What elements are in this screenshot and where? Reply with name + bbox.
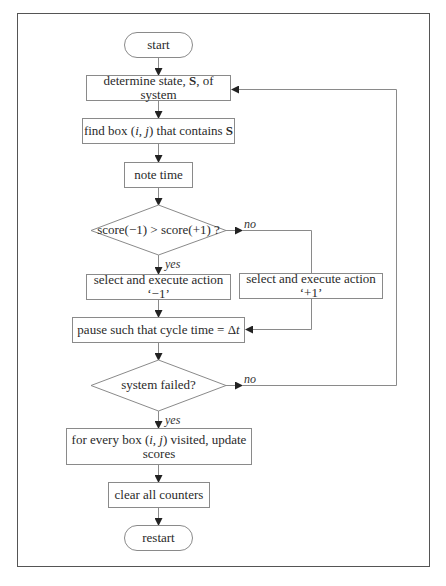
start-terminal: start [124, 32, 193, 58]
determine-state-label: determine state, S, of system [87, 74, 230, 101]
restart-label: restart [142, 531, 174, 545]
flowchart-canvas: start determine state, S, of system find… [0, 0, 446, 586]
restart-terminal: restart [124, 525, 193, 551]
pause-label: pause such that cycle time = Δt [77, 323, 239, 337]
note-time-label: note time [134, 168, 183, 182]
failed-no-label: no [244, 372, 256, 387]
score-yes-label: yes [165, 257, 180, 272]
determine-state-box: determine state, S, of system [86, 75, 231, 101]
action-minus-box: select and execute action ‘−1’ [86, 274, 231, 300]
note-time-box: note time [124, 162, 193, 188]
decision-score-label: score(−1) > score(+1) ? [91, 222, 226, 238]
action-plus-box: select and execute action ‘+1’ [239, 273, 383, 299]
find-box-label: find box (i, j) that contains S [84, 124, 233, 138]
failed-yes-label: yes [165, 413, 180, 428]
clear-counters-box: clear all counters [108, 482, 210, 508]
start-label: start [147, 38, 169, 52]
decision-failed-label: system failed? [91, 377, 226, 393]
score-no-label: no [244, 217, 256, 232]
update-scores-label-line1: for every box (i, j) visited, update [72, 433, 247, 447]
update-scores-label-line2: scores [143, 447, 176, 461]
find-box-box: find box (i, j) that contains S [82, 118, 235, 144]
action-minus-label: select and execute action ‘−1’ [87, 273, 230, 300]
pause-box: pause such that cycle time = Δt [72, 317, 245, 343]
action-plus-label: select and execute action ‘+1’ [240, 272, 382, 299]
clear-counters-label: clear all counters [115, 488, 204, 502]
update-scores-box: for every box (i, j) visited, update sco… [66, 428, 252, 465]
